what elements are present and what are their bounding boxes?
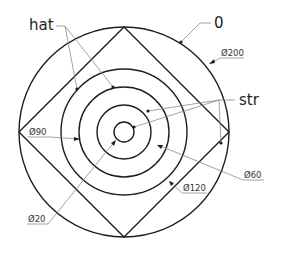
svg-text:Ø90: Ø90 (29, 127, 47, 137)
circle-r27 (97, 105, 151, 159)
dim-200: Ø200 (209, 48, 244, 64)
outer-circle (19, 27, 229, 237)
circle-r45 (79, 87, 169, 177)
zero-callout: 0 (179, 14, 223, 44)
dim-90: Ø90 (28, 127, 80, 141)
hat-label: hat (29, 16, 54, 34)
zero-label: 0 (214, 14, 224, 32)
technical-drawing: hat 0 Ø200 str Ø90 Ø60 (0, 0, 287, 253)
circle-r63 (61, 69, 187, 195)
str-label: str (239, 91, 260, 109)
circle-r10 (114, 122, 134, 142)
svg-text:Ø200: Ø200 (221, 48, 244, 58)
svg-text:Ø20: Ø20 (28, 214, 46, 224)
diamond (19, 27, 229, 237)
svg-text:Ø120: Ø120 (183, 183, 206, 193)
svg-text:Ø60: Ø60 (244, 170, 262, 180)
